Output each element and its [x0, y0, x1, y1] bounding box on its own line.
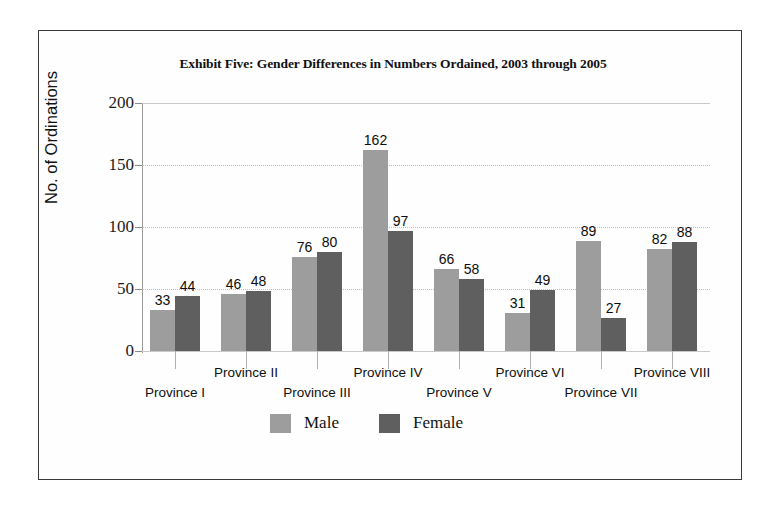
bar-male-2: [221, 294, 246, 351]
bar-male-6: [505, 313, 530, 351]
bar-female-7: [601, 318, 626, 351]
bar-female-5: [459, 279, 484, 351]
bar-value-female-1: 44: [171, 278, 205, 294]
x-tick-7: [601, 351, 602, 369]
bar-male-4: [363, 150, 388, 351]
plot-area: 334446487680162976658314989278288: [142, 103, 710, 351]
bar-value-male-4: 162: [359, 132, 393, 148]
y-tick-mark-0: [135, 351, 142, 352]
gridline-150: [142, 165, 710, 167]
bar-value-female-3: 80: [313, 234, 347, 250]
gridline-0: [142, 351, 710, 352]
legend-label-male: Male: [304, 413, 339, 433]
y-tick-mark-50: [135, 289, 142, 290]
bar-female-2: [246, 291, 271, 351]
legend-label-female: Female: [413, 413, 463, 433]
bar-value-female-5: 58: [455, 261, 489, 277]
x-axis-label-3: Province III: [262, 385, 372, 400]
y-axis-title: No. of Ordinations: [42, 33, 61, 243]
bar-value-female-2: 48: [242, 273, 276, 289]
x-axis-label-2: Province II: [191, 365, 301, 380]
x-axis-label-5: Province V: [404, 385, 514, 400]
x-axis-label-6: Province VI: [475, 365, 585, 380]
chart-title: Exhibit Five: Gender Differences in Numb…: [108, 56, 678, 72]
bar-value-female-4: 97: [384, 213, 418, 229]
bar-female-1: [175, 296, 200, 351]
x-axis-label-7: Province VII: [546, 385, 656, 400]
bar-male-8: [647, 249, 672, 351]
legend-swatch-male: [270, 414, 291, 433]
y-tick-mark-100: [135, 227, 142, 228]
x-tick-1: [175, 351, 176, 369]
x-axis-label-1: Province I: [120, 385, 230, 400]
gridline-100: [142, 227, 710, 229]
gridline-200: [142, 103, 710, 104]
y-tick-label-50: 50: [117, 279, 134, 299]
y-tick-mark-200: [135, 103, 142, 104]
bar-male-5: [434, 269, 459, 351]
y-tick-label-200: 200: [109, 93, 135, 113]
bar-value-female-6: 49: [526, 272, 560, 288]
y-tick-mark-150: [135, 165, 142, 166]
y-tick-label-150: 150: [109, 155, 135, 175]
bar-male-3: [292, 257, 317, 351]
bar-value-female-7: 27: [597, 300, 631, 316]
bar-value-female-8: 88: [668, 224, 702, 240]
x-axis-label-8: Province VIII: [617, 365, 727, 380]
legend-item-female: Female: [379, 413, 463, 433]
bar-male-1: [150, 310, 175, 351]
x-tick-5: [459, 351, 460, 369]
x-tick-3: [317, 351, 318, 369]
y-tick-label-100: 100: [109, 217, 135, 237]
bar-female-8: [672, 242, 697, 351]
x-axis-label-4: Province IV: [333, 365, 443, 380]
bar-female-3: [317, 252, 342, 351]
legend-item-male: Male: [270, 413, 339, 433]
bar-value-male-7: 89: [572, 223, 606, 239]
bar-male-7: [576, 241, 601, 351]
legend-swatch-female: [379, 414, 400, 433]
y-axis-tick-labels: 050100150200: [96, 103, 134, 351]
chart-legend: MaleFemale: [270, 413, 463, 433]
y-tick-label-0: 0: [126, 341, 135, 361]
bar-female-4: [388, 231, 413, 351]
bar-female-6: [530, 290, 555, 351]
